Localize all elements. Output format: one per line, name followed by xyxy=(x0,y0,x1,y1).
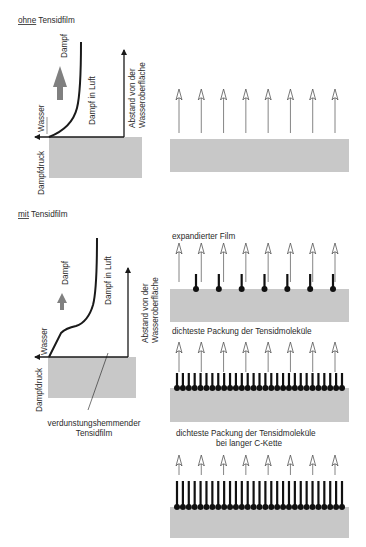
water-block xyxy=(170,388,349,422)
vapor-arrow-icon xyxy=(310,455,316,475)
surfactant-molecule-icon xyxy=(298,481,304,510)
surfactant-molecule-icon xyxy=(286,373,292,391)
surfactant-molecule-icon xyxy=(327,481,333,510)
surfactant-molecule-icon xyxy=(304,481,310,510)
vapor-arrow-icon xyxy=(265,342,271,372)
surfactant-molecule-icon xyxy=(193,274,199,292)
label-vapor-pressure: Dampfdruck xyxy=(37,150,46,195)
surfactant-molecule-icon xyxy=(221,481,227,510)
surfactant-molecule-icon xyxy=(192,373,198,391)
label-distance-line1: Abstand von der xyxy=(141,283,150,343)
surfactant-molecule-icon xyxy=(227,373,233,391)
surfactant-molecule-icon xyxy=(227,481,233,510)
surfactant-molecule-icon xyxy=(257,373,263,391)
label-vapor-in-air: Dampf in Luft xyxy=(104,256,113,305)
surfactant-molecule-icon xyxy=(239,481,245,510)
evaporation-diagram: ohne Tensidfilm Dampf Dampf in Luft Wass… xyxy=(0,0,366,547)
surfactant-molecule-icon xyxy=(321,373,327,391)
vapor-arrow-icon xyxy=(176,243,182,282)
water-block xyxy=(170,139,349,172)
surfactant-molecule-icon xyxy=(251,373,257,391)
surfactant-molecule-icon xyxy=(268,481,274,510)
surfactant-molecule-icon xyxy=(198,481,204,510)
panel-densest-packing: dichteste Packung der Tensidmoleküle xyxy=(170,327,349,422)
label-distance-line2: Wasseroberfläche xyxy=(138,62,147,128)
label-film-line1: verdunstungshemmender xyxy=(48,419,141,428)
vapor-arrow-icon xyxy=(243,342,249,372)
surfactant-molecule-icon xyxy=(292,373,298,391)
surfactant-molecule-icon xyxy=(221,373,227,391)
large-up-arrow-icon xyxy=(53,66,67,100)
vapor-arrow-icon xyxy=(332,342,338,372)
label-distance-line1: Abstand von der xyxy=(128,68,137,128)
surfactant-molecule-icon xyxy=(245,481,251,510)
vapor-arrows xyxy=(176,342,338,372)
section-title-with: mit Tensidfilm xyxy=(18,210,68,219)
surfactant-molecule-icon xyxy=(233,373,239,391)
label-vapor: Dampf xyxy=(60,33,69,58)
surfactant-molecules xyxy=(174,481,345,510)
label-vapor: Dampf xyxy=(61,260,70,285)
vapor-arrow-icon xyxy=(176,455,182,475)
surfactant-molecule-icon xyxy=(280,481,286,510)
water-block xyxy=(49,137,142,178)
surfactant-molecule-icon xyxy=(304,373,310,391)
surfactant-molecule-icon xyxy=(274,373,280,391)
vapor-arrow-icon xyxy=(198,89,204,133)
vapor-arrow-icon xyxy=(332,89,338,133)
surfactant-molecule-icon xyxy=(268,373,274,391)
surfactant-molecules xyxy=(174,373,345,391)
surfactant-molecule-icon xyxy=(239,373,245,391)
panel-expanded-film: expandierter Film xyxy=(170,232,349,322)
surfactant-molecule-icon xyxy=(327,373,333,391)
vapor-arrow-icon xyxy=(176,342,182,372)
surface-without-film xyxy=(170,89,349,172)
surfactant-molecule-icon xyxy=(315,373,321,391)
vapor-arrow-icon xyxy=(243,89,249,133)
surfactant-molecule-icon xyxy=(215,481,221,510)
surfactant-molecule-icon xyxy=(333,481,339,510)
label-water: Wasser xyxy=(40,327,49,355)
vapor-arrow-icon xyxy=(287,342,293,372)
surfactant-molecule-icon xyxy=(209,481,215,510)
vapor-curve xyxy=(49,238,97,357)
vapor-arrow-icon xyxy=(243,455,249,475)
surfactant-molecule-icon xyxy=(280,373,286,391)
vapor-arrow-icon xyxy=(287,455,293,475)
surfactant-molecule-icon xyxy=(180,373,186,391)
vapor-arrow-icon xyxy=(243,243,249,282)
surfactant-molecule-icon xyxy=(233,481,239,510)
water-block xyxy=(48,357,136,398)
surfactant-molecule-icon xyxy=(298,373,304,391)
vapor-arrow-icon xyxy=(176,89,182,133)
vapor-arrow-icon xyxy=(221,455,227,475)
chart-with-film: Dampf Dampf in Luft Wasser Dampfdruck Ab… xyxy=(35,238,160,438)
vapor-arrow-icon xyxy=(198,455,204,475)
water-block xyxy=(170,507,349,538)
surfactant-molecule-icon xyxy=(186,481,192,510)
surfactant-molecule-icon xyxy=(310,481,316,510)
panel-caption: dichteste Packung der Tensidmoleküle xyxy=(172,327,312,336)
surfactant-molecule-icon xyxy=(198,373,204,391)
vapor-arrows xyxy=(176,243,338,282)
vapor-arrow-icon xyxy=(221,342,227,372)
vapor-arrows xyxy=(176,455,338,475)
vapor-arrow-icon xyxy=(310,89,316,133)
surfactant-molecule-icon xyxy=(315,481,321,510)
surfactant-molecule-icon xyxy=(174,481,180,510)
surfactant-molecule-icon xyxy=(203,373,209,391)
surfactant-molecule-icon xyxy=(292,481,298,510)
panel-caption-line2: bei langer C-Kette xyxy=(216,439,282,448)
vapor-arrow-icon xyxy=(221,89,227,133)
surfactant-molecule-icon xyxy=(310,373,316,391)
surfactant-molecule-icon xyxy=(339,481,345,510)
surfactant-molecule-icon xyxy=(203,481,209,510)
vapor-arrows xyxy=(176,89,338,133)
vapor-arrow-icon xyxy=(198,243,204,282)
surfactant-molecule-icon xyxy=(284,274,290,292)
surfactant-molecule-icon xyxy=(333,373,339,391)
surfactant-molecule-icon xyxy=(339,373,345,391)
surfactant-molecule-icon xyxy=(239,274,245,292)
label-film-line2: Tensidfilm xyxy=(76,429,113,438)
surfactant-molecule-icon xyxy=(321,481,327,510)
